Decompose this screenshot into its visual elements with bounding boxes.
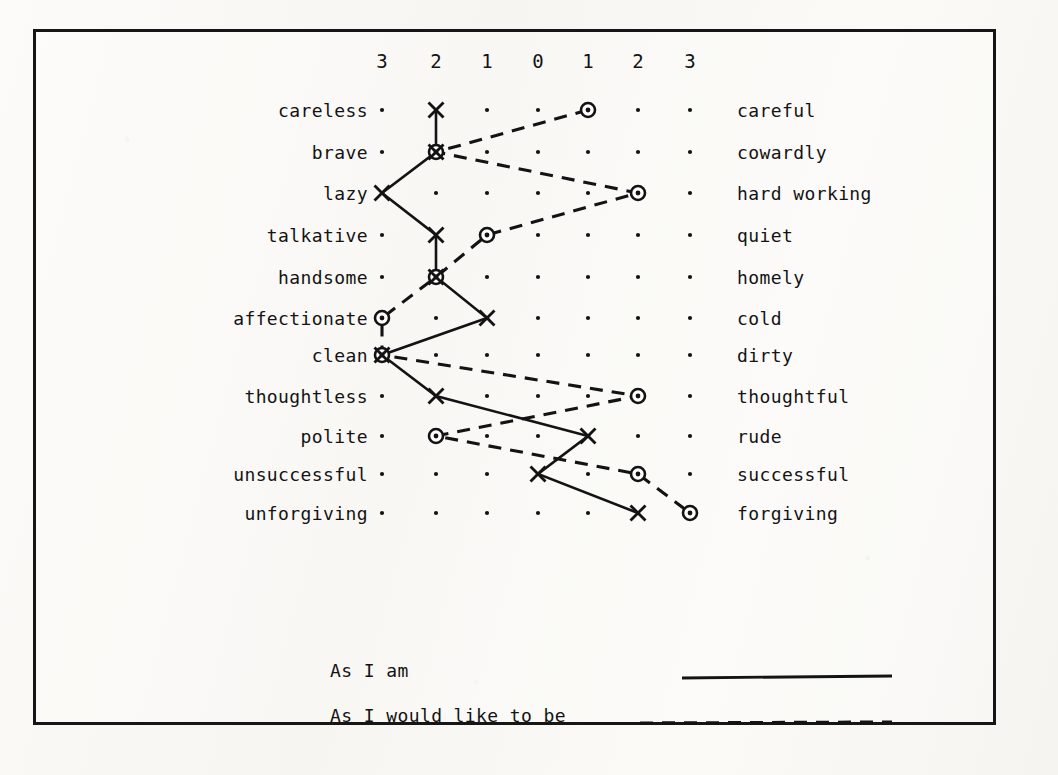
right-label-hard-working: hard working: [737, 183, 872, 204]
right-label-rude: rude: [737, 426, 782, 447]
scale-header-5: 2: [632, 50, 643, 72]
left-label-unforgiving: unforgiving: [244, 503, 368, 524]
legend-label-as-i-would-like-to-be: As I would like to be: [330, 705, 566, 726]
scale-header-0: 3: [376, 50, 387, 72]
scale-header-2: 1: [481, 50, 492, 72]
figure-frame: [33, 29, 996, 725]
scale-header-1: 2: [430, 50, 441, 72]
right-label-successful: successful: [737, 464, 849, 485]
right-label-quiet: quiet: [737, 225, 793, 246]
right-label-dirty: dirty: [737, 345, 793, 366]
scale-header-3: 0: [532, 50, 543, 72]
right-label-thoughtful: thoughtful: [737, 386, 849, 407]
left-label-polite: polite: [301, 426, 368, 447]
left-label-thoughtless: thoughtless: [244, 386, 368, 407]
left-label-lazy: lazy: [323, 183, 368, 204]
right-label-forgiving: forgiving: [737, 503, 838, 524]
scale-header-4: 1: [582, 50, 593, 72]
scale-header-6: 3: [684, 50, 695, 72]
right-label-cold: cold: [737, 308, 782, 329]
left-label-brave: brave: [312, 142, 368, 163]
left-label-unsuccessful: unsuccessful: [233, 464, 368, 485]
left-label-talkative: talkative: [267, 225, 368, 246]
right-label-cowardly: cowardly: [737, 142, 827, 163]
right-label-careful: careful: [737, 100, 816, 121]
left-label-affectionate: affectionate: [233, 308, 368, 329]
legend-label-as-i-am: As I am: [330, 660, 409, 681]
left-label-handsome: handsome: [278, 267, 368, 288]
left-label-careless: careless: [278, 100, 368, 121]
right-label-homely: homely: [737, 267, 804, 288]
left-label-clean: clean: [312, 345, 368, 366]
